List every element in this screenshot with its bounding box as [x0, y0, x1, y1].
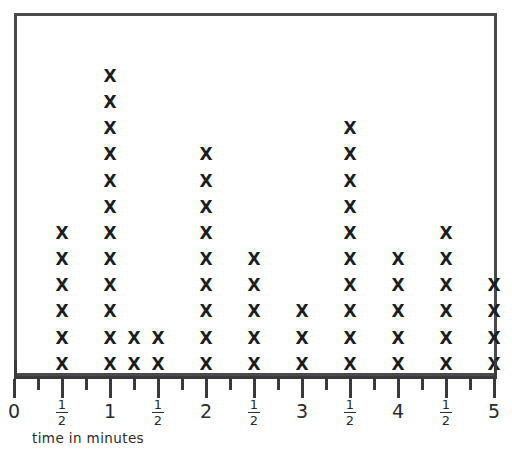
axis-tick-major — [397, 379, 400, 398]
plot-frame — [14, 13, 497, 376]
fraction-numerator: 1 — [248, 398, 260, 412]
axis-tick-minor — [277, 379, 280, 390]
axis-tick-minor — [85, 379, 88, 390]
axis-tick-minor — [229, 379, 232, 390]
axis-tick-label: 12 — [135, 400, 181, 429]
fraction-numerator: 1 — [152, 398, 164, 412]
axis-tick-label: 5 — [471, 400, 512, 422]
axis-tick-label: 2 — [183, 400, 229, 422]
axis-tick-label: 1 — [87, 400, 133, 422]
axis-tick-minor — [37, 379, 40, 390]
fraction-one-half: 12 — [248, 398, 260, 427]
axis-tick-minor — [325, 379, 328, 390]
axis-tick-minor — [133, 379, 136, 390]
fraction-numerator: 1 — [440, 398, 452, 412]
fraction-one-half: 12 — [440, 398, 452, 427]
fraction-one-half: 12 — [152, 398, 164, 427]
fraction-one-half: 12 — [56, 398, 68, 427]
fraction-one-half: 12 — [344, 398, 356, 427]
axis-tick-minor — [181, 379, 184, 390]
axis-tick-major — [301, 379, 304, 398]
axis-tick-major — [493, 379, 496, 398]
axis-tick-label: 4 — [375, 400, 421, 422]
axis-tick-minor — [469, 379, 472, 390]
axis-tick-label: 12 — [423, 400, 469, 429]
axis-tick-major — [157, 379, 160, 398]
fraction-denominator: 2 — [344, 412, 356, 427]
fraction-denominator: 2 — [440, 412, 452, 427]
dot-plot-chart: XXXXXXXXXXXXXXXXXXXXXXXXXXXXXXXXXXXXXXXX… — [0, 0, 512, 458]
axis-tick-major — [13, 379, 16, 398]
axis-tick-major — [349, 379, 352, 398]
axis-tick-major — [205, 379, 208, 398]
axis-tick-label: 0 — [0, 400, 37, 422]
axis-tick-label: 3 — [279, 400, 325, 422]
fraction-numerator: 1 — [344, 398, 356, 412]
axis-tick-label: 12 — [231, 400, 277, 429]
axis-tick-label: 12 — [327, 400, 373, 429]
axis-tick-major — [61, 379, 64, 398]
axis-tick-major — [253, 379, 256, 398]
axis-tick-label: 12 — [39, 400, 85, 429]
axis-right-cap — [494, 360, 497, 379]
fraction-numerator: 1 — [56, 398, 68, 412]
axis-tick-minor — [373, 379, 376, 390]
x-axis-caption: time in minutes — [32, 430, 144, 446]
axis-tick-major — [109, 379, 112, 398]
chart-title — [0, 0, 512, 3]
fraction-denominator: 2 — [248, 412, 260, 427]
axis-tick-minor — [421, 379, 424, 390]
axis-tick-major — [445, 379, 448, 398]
fraction-denominator: 2 — [56, 412, 68, 427]
fraction-denominator: 2 — [152, 412, 164, 427]
